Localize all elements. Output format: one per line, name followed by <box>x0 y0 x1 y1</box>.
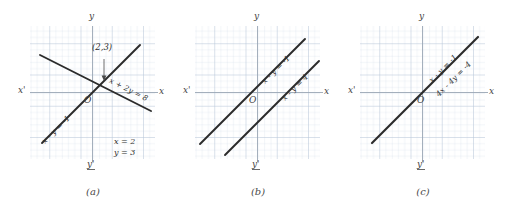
caption-a: (a) <box>18 186 168 197</box>
panel-c: y x x' y' O x - y = -1 4x - 4y = -4 <box>348 12 498 172</box>
intersection-point-label: (2,3) <box>92 42 112 52</box>
axis-label-x-neg-b: x' <box>183 86 191 95</box>
axis-label-y-neg-a: y' <box>87 160 95 170</box>
solution-x: x = 2 <box>114 137 135 148</box>
axis-label-y-a: y <box>89 12 94 21</box>
solution-box-a: x = 2 y = 3 <box>114 137 135 159</box>
caption-b: (b) <box>183 186 333 197</box>
origin-label-c: O <box>417 96 424 105</box>
figure-linear-systems: y x x' y' O (2,3) x + 2y = 8 x - y = -1 … <box>0 0 509 222</box>
plot-b <box>183 12 333 172</box>
axis-label-y-neg-c: y' <box>417 160 425 170</box>
axis-label-x-b: x <box>324 87 329 96</box>
plot-c <box>348 12 498 172</box>
axis-label-x-a: x <box>159 87 164 96</box>
origin-label-a: O <box>84 96 91 105</box>
axis-label-x-neg-c: x' <box>348 86 356 95</box>
origin-label-b: O <box>249 96 256 105</box>
axis-label-x-c: x <box>489 87 494 96</box>
axis-label-x-neg-a: x' <box>18 86 26 95</box>
solution-y: y = 3 <box>114 148 135 159</box>
panel-a: y x x' y' O (2,3) x + 2y = 8 x - y = -1 … <box>18 12 168 172</box>
axis-label-y-neg-b: y' <box>252 160 260 170</box>
axis-label-y-c: y <box>419 12 424 21</box>
panel-b: y x x' y' O x - y = -1 x - y = 4 <box>183 12 333 172</box>
axis-label-y-b: y <box>254 12 259 21</box>
caption-row: (a) (b) (c) <box>0 186 509 210</box>
caption-c: (c) <box>348 186 498 197</box>
